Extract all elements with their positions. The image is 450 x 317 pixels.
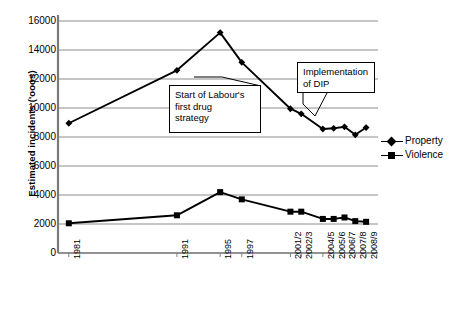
data-point-violence [174,212,180,218]
data-point-violence [298,209,304,215]
legend-item-violence: Violence [381,148,443,162]
y-axis-tick-label: 2000 [12,219,56,229]
y-axis-tick-label: 14000 [12,45,56,55]
x-axis-tick-label: 2008/9 [370,231,379,259]
data-point-violence [341,214,347,220]
x-axis-tick-label: 2005/6 [338,231,347,259]
legend-item-property: Property [381,134,443,148]
annotation-line: first drug [175,101,255,113]
y-axis-tick-label: 6000 [12,161,56,171]
annotation-leader-dip-a [303,93,315,116]
data-point-violence [352,218,358,224]
data-point-violence [239,196,245,202]
legend-label: Property [405,135,443,147]
annotation-line: strategy [175,112,255,124]
chart-container: Estimated incidents ('ooos) 020004000600… [0,0,450,317]
data-point-violence [217,189,223,195]
y-axis-tick-label: 12000 [12,74,56,84]
annotation-line: Start of Labour's [175,89,255,101]
x-axis-tick-label: 2004/5 [327,231,336,259]
data-point-violence [331,216,337,222]
y-axis-tick-label: 10000 [12,103,56,113]
x-axis-tick-label: 1981 [73,239,82,259]
x-axis-tick-label: 1997 [246,239,255,259]
data-point-property [330,125,337,132]
annotation-line: of DIP [303,78,369,90]
x-axis-tick-label: 2002/3 [305,231,314,259]
annotation-leader-dip-b [315,93,327,116]
legend-label: Violence [405,149,443,161]
x-axis-tick-label: 2007/8 [359,231,368,259]
data-point-violence [320,216,326,222]
annotation-labour-drug-strategy: Start of Labour'sfirst drugstrategy [169,85,261,133]
x-axis-tick-label: 2001/2 [294,231,303,259]
annotation-implementation-of-dip: Implementationof DIP [297,62,375,93]
annotation-line: Implementation [303,66,369,78]
y-axis-tick-label: 0 [12,248,56,258]
y-axis-tick-labels: 0200040006000800010000120001400016000 [0,0,56,317]
y-axis-tick-label: 8000 [12,132,56,142]
x-axis-tick-label: 2006/7 [348,231,357,259]
x-axis-tick-label: 1995 [224,239,233,259]
square-marker-icon [381,149,403,161]
diamond-marker-icon [381,135,403,147]
chart-legend: PropertyViolence [381,134,443,162]
data-point-property [65,120,72,127]
x-axis-tick-label: 1991 [181,239,190,259]
data-point-violence [66,220,72,226]
y-axis-tick-label: 4000 [12,190,56,200]
data-point-violence [363,219,369,225]
data-point-violence [287,209,293,215]
y-axis-tick-label: 16000 [12,16,56,26]
